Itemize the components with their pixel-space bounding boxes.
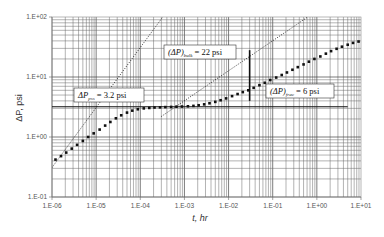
data-point xyxy=(76,144,79,147)
data-point xyxy=(302,63,305,66)
data-point xyxy=(335,48,338,51)
annotation-pss: ΔPpss = 3.2 psi xyxy=(74,88,144,102)
data-point xyxy=(346,43,349,46)
data-point xyxy=(208,102,211,105)
data-point xyxy=(225,97,228,100)
x-tick-label: 1.E-01 xyxy=(263,202,283,209)
data-point xyxy=(159,106,162,109)
data-point xyxy=(219,99,222,102)
data-point xyxy=(296,66,299,69)
data-point xyxy=(137,108,140,111)
data-point xyxy=(65,151,68,154)
data-point xyxy=(319,55,322,58)
data-point xyxy=(170,106,173,109)
data-point xyxy=(109,121,112,124)
data-point xyxy=(153,106,156,109)
data-point xyxy=(258,84,261,87)
annotation-bulk: (ΔP)bulk = 22 psi xyxy=(164,45,236,59)
data-point xyxy=(325,52,328,55)
data-point xyxy=(175,105,178,108)
y-tick-label: 1.E+00 xyxy=(26,133,47,140)
y-axis-tick-labels: 1.E-011.E+001.E+011.E+02 xyxy=(26,13,52,200)
data-point xyxy=(341,45,344,48)
x-tick-label: 1.E+01 xyxy=(351,202,372,209)
data-point xyxy=(313,58,316,61)
svg-text:ΔPpss = 3.2 psi: ΔPpss = 3.2 psi xyxy=(77,90,127,101)
data-point xyxy=(60,155,63,158)
data-point xyxy=(54,158,57,161)
data-point xyxy=(131,109,134,112)
data-point xyxy=(126,111,129,114)
data-point xyxy=(82,140,85,143)
data-point xyxy=(280,74,283,77)
data-point xyxy=(236,93,239,96)
y-tick-label: 1.E+02 xyxy=(26,13,47,20)
data-point xyxy=(203,103,206,106)
data-point xyxy=(269,79,272,82)
data-point xyxy=(291,68,294,71)
data-point xyxy=(286,71,289,74)
data-point xyxy=(241,91,244,94)
data-point xyxy=(87,136,90,139)
data-point xyxy=(275,76,278,79)
data-point xyxy=(98,128,101,131)
data-point xyxy=(164,106,167,109)
data-point xyxy=(330,50,333,53)
data-point xyxy=(92,132,95,135)
data-point xyxy=(231,95,234,98)
data-point xyxy=(263,82,266,85)
data-point xyxy=(142,107,145,110)
data-point xyxy=(308,60,311,63)
y-axis-label: ΔP, psi xyxy=(14,94,24,121)
annotations: (ΔP)bulk = 22 psi(ΔP)frac = 6 psiΔPpss =… xyxy=(74,45,334,102)
data-point xyxy=(352,42,355,45)
x-tick-label: 1.E+00 xyxy=(306,202,327,209)
dotted-trend-line xyxy=(52,0,273,168)
data-point xyxy=(148,107,151,110)
x-tick-label: 1.E-06 xyxy=(42,202,62,209)
data-point xyxy=(357,40,360,43)
data-point xyxy=(197,104,200,107)
data-point xyxy=(181,105,184,108)
annotation-frac: (ΔP)frac = 6 psi xyxy=(266,84,334,98)
x-axis-tick-labels: 1.E-061.E-051.E-041.E-031.E-021.E-011.E+… xyxy=(42,197,371,209)
x-tick-label: 1.E-02 xyxy=(219,202,239,209)
data-point xyxy=(252,87,255,90)
x-tick-label: 1.E-04 xyxy=(131,202,151,209)
x-axis-label: t, hr xyxy=(192,213,209,223)
svg-text:(ΔP)frac = 6 psi: (ΔP)frac = 6 psi xyxy=(270,86,320,97)
data-point xyxy=(247,89,250,92)
x-tick-label: 1.E-05 xyxy=(87,202,107,209)
svg-text:(ΔP)bulk = 22 psi: (ΔP)bulk = 22 psi xyxy=(168,47,223,58)
data-point xyxy=(187,105,190,108)
log-log-chart: 1.E-061.E-051.E-041.E-031.E-021.E-011.E+… xyxy=(0,0,384,237)
data-point xyxy=(70,147,73,150)
data-point xyxy=(120,114,123,117)
y-tick-label: 1.E-01 xyxy=(28,193,48,200)
data-point xyxy=(104,124,107,127)
x-tick-label: 1.E-03 xyxy=(175,202,195,209)
y-tick-label: 1.E+01 xyxy=(26,73,47,80)
data-point xyxy=(192,105,195,108)
data-point xyxy=(115,117,118,120)
data-point xyxy=(214,101,217,104)
